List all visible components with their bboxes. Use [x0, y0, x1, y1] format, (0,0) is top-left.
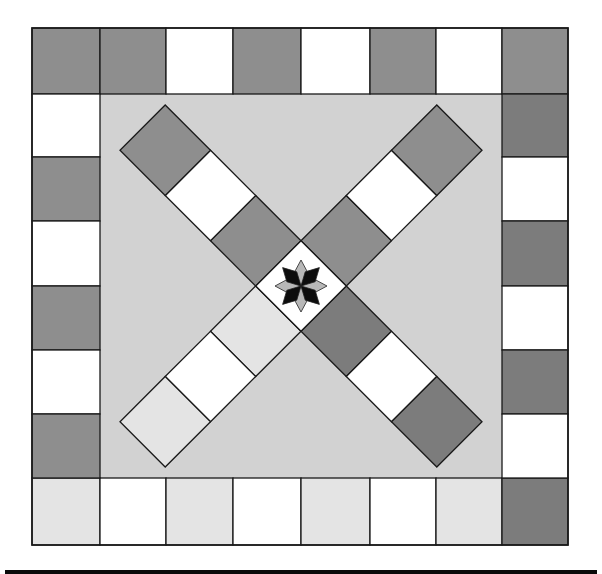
track-cell-bottom-4[interactable] — [301, 478, 370, 545]
track-cell-left-1[interactable] — [32, 157, 100, 221]
track-cell-top-2[interactable] — [166, 28, 233, 94]
track-cell-right-1[interactable] — [502, 157, 568, 221]
bottom-divider-rule — [5, 570, 597, 574]
track-cell-top-7[interactable] — [502, 28, 568, 94]
track-cell-left-4[interactable] — [32, 350, 100, 414]
track-cell-right-4[interactable] — [502, 350, 568, 414]
track-cell-top-0[interactable] — [32, 28, 100, 94]
eight-point-star-icon — [275, 260, 327, 312]
track-cell-bottom-5[interactable] — [370, 478, 436, 545]
track-cell-right-2[interactable] — [502, 221, 568, 286]
track-cell-bottom-6[interactable] — [436, 478, 502, 545]
track-cell-top-1[interactable] — [100, 28, 166, 94]
track-cell-left-2[interactable] — [32, 221, 100, 286]
track-cell-top-6[interactable] — [436, 28, 502, 94]
track-cell-bottom-3[interactable] — [233, 478, 301, 545]
track-cell-right-3[interactable] — [502, 286, 568, 350]
track-cell-top-3[interactable] — [233, 28, 301, 94]
track-cell-right-5[interactable] — [502, 414, 568, 478]
track-cell-bottom-0[interactable] — [32, 478, 100, 545]
track-cell-bottom-2[interactable] — [166, 478, 233, 545]
track-cell-bottom-7[interactable] — [502, 478, 568, 545]
track-cell-left-0[interactable] — [32, 94, 100, 157]
track-cell-top-4[interactable] — [301, 28, 370, 94]
track-cell-left-3[interactable] — [32, 286, 100, 350]
track-cell-left-5[interactable] — [32, 414, 100, 478]
track-cell-top-5[interactable] — [370, 28, 436, 94]
game-board — [0, 0, 602, 574]
track-cell-bottom-1[interactable] — [100, 478, 166, 545]
track-cell-right-0[interactable] — [502, 94, 568, 157]
